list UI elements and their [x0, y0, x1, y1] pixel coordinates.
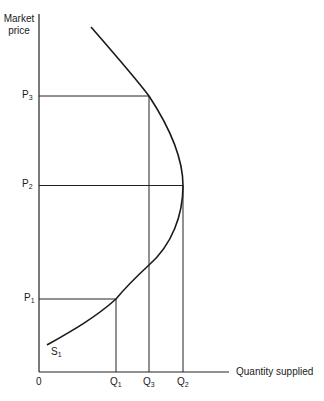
tick-p3: P3	[22, 89, 33, 101]
curve-label-s1: S1	[51, 346, 62, 358]
y-axis-label-line2: price	[2, 25, 36, 37]
supply-chart	[0, 0, 324, 401]
tick-p1: P1	[24, 292, 35, 304]
origin-label: 0	[36, 376, 42, 387]
y-axis-label-line1: Market	[2, 13, 36, 25]
tick-q1: Q1	[110, 376, 122, 388]
tick-q2: Q2	[177, 376, 189, 388]
y-axis-label: Market price	[2, 13, 36, 37]
x-axis-label: Quantity supplied	[236, 366, 313, 377]
tick-q3: Q3	[143, 376, 155, 388]
tick-p2: P2	[22, 178, 33, 190]
